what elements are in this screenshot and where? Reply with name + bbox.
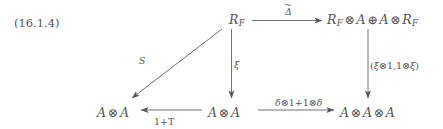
tensor-icon: ⊗ [343,12,357,27]
one-plus-t-glyph: 1+T [154,116,174,127]
tensor-icon: ⊗ [281,97,289,108]
node-top-right-part-7: R [402,12,411,27]
tensor-icon: ⊗ [217,105,231,120]
node-bottom-center: A⊗A [208,107,240,120]
node-top-right-part-3: A [357,12,366,27]
tensor-icon: ⊗ [402,60,410,71]
node-top-right-part-5: A [379,12,388,27]
node-top-right-part-8: F [412,18,418,28]
script-a-glyph: A [386,105,395,120]
node-top-center: RF [229,14,245,28]
script-a-glyph: A [340,105,349,120]
xi-glyph: ξ [234,59,239,70]
arrow-label-one-plus-t: 1+T [154,117,174,127]
tilde-accent-icon: ~ [285,2,293,10]
s-glyph: S [139,55,146,66]
tensor-icon: ⊗ [379,60,387,71]
node-top-right-part-1: F [337,18,343,28]
tensor-icon: ⊗ [372,105,386,120]
arrow-label-delta-tilde: ~Δ [285,7,292,17]
node-top-center-subscript: F [239,18,245,28]
node-top-right: RF⊗A⊕A⊗RF [327,14,418,28]
script-a-glyph: A [120,105,129,120]
arrow-label-delta-tensor: δ⊗1+1⊗δ [275,98,322,108]
script-a-glyph: A [363,105,372,120]
paren-close: ) [415,60,419,71]
script-a-glyph: A [97,105,106,120]
node-bottom-right: A⊗A⊗A [340,107,395,120]
tensor-icon: ⊗ [106,105,120,120]
arrow-label-s: S [139,56,146,66]
script-a-glyph: A [231,105,240,120]
node-bottom-left: A⊗A [97,107,129,120]
node-top-center-base: R [229,12,238,27]
script-a-glyph: A [208,105,217,120]
tensor-icon: ⊗ [389,12,403,27]
arrow-label-xi: ξ [234,60,239,70]
commutative-diagram-figure: (16.1.4) RF RF⊗A⊕A⊗RF A⊗A A⊗A [0,0,443,129]
tensor-icon: ⊗ [309,97,317,108]
plus-glyph: + [295,97,303,108]
oplus-icon: ⊕ [366,12,380,27]
delta-glyph: δ [317,97,323,108]
tensor-icon: ⊗ [349,105,363,120]
node-top-right-part-0: R [327,12,336,27]
arrow-label-xi-pair: (ξ⊗1,1⊗ξ) [370,61,419,71]
